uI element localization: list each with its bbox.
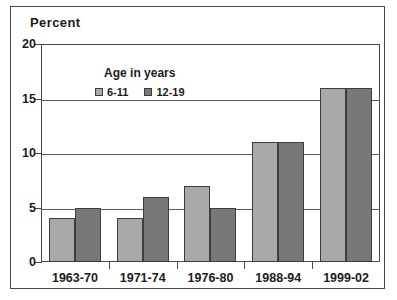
bar — [320, 88, 346, 262]
bar — [49, 218, 75, 262]
legend-entry: 6-11 — [95, 86, 128, 98]
x-axis-tick-mark — [244, 262, 245, 269]
legend-label: 12-19 — [156, 86, 184, 98]
x-axis-tick-label: 1971-74 — [109, 271, 177, 285]
bar — [252, 142, 278, 262]
y-axis-tick-label: 5 — [6, 201, 36, 215]
legend-swatch-icon — [95, 88, 103, 96]
bar-group — [244, 44, 312, 262]
x-axis-tick-label: 1963-70 — [41, 271, 109, 285]
x-axis-tick-label: 1976-80 — [177, 271, 245, 285]
y-axis-tick-label: 0 — [6, 255, 36, 269]
y-axis-labels: 05101520 — [0, 44, 36, 262]
x-axis-labels: 1963-701971-741976-801988-941999-02 — [41, 271, 380, 289]
y-axis-tick-label: 10 — [6, 146, 36, 160]
x-axis-tick-label: 1999-02 — [312, 271, 380, 285]
bar-group — [177, 44, 245, 262]
legend-entry: 12-19 — [144, 86, 184, 98]
bar — [278, 142, 304, 262]
bar — [210, 208, 236, 263]
bar — [143, 197, 169, 262]
chart-title: Percent — [30, 15, 81, 30]
y-axis-tick-label: 20 — [6, 37, 36, 51]
bar — [75, 208, 101, 263]
legend-entries: 6-1112-19 — [95, 86, 185, 98]
x-axis-tick-mark — [109, 262, 110, 269]
x-axis-tick-marks — [41, 262, 380, 270]
x-axis-tick-label: 1988-94 — [244, 271, 312, 285]
bar — [117, 218, 143, 262]
bars-layer — [41, 44, 380, 262]
legend-title: Age in years — [95, 66, 185, 80]
legend-label: 6-11 — [107, 86, 128, 98]
x-axis-tick-mark — [312, 262, 313, 269]
chart-screenshot: Percent 05101520 1963-701971-741976-8019… — [0, 0, 397, 300]
bar-group — [312, 44, 380, 262]
legend-swatch-icon — [144, 88, 152, 96]
bar — [184, 186, 210, 262]
legend: Age in years 6-1112-19 — [95, 66, 185, 98]
bar — [346, 88, 372, 262]
y-axis-tick-label: 15 — [6, 92, 36, 106]
x-axis-tick-mark — [177, 262, 178, 269]
